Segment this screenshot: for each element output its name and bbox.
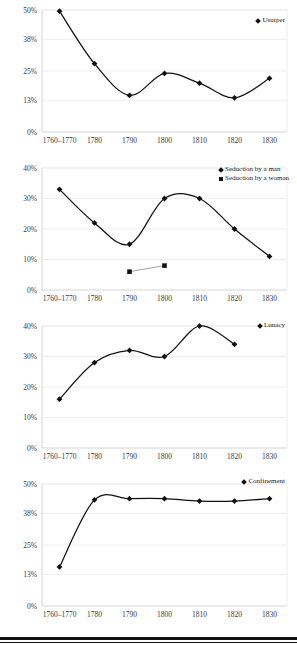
diamond-marker-icon (257, 323, 263, 329)
diamond-marker-icon (218, 167, 224, 173)
x-axis-tick-label: 1820 (227, 136, 242, 145)
y-axis-tick-label: 50% (23, 6, 37, 15)
chart-canvas-confinement: 0%13%25%38%50%1760–177017801790180018101… (0, 474, 297, 632)
x-axis-tick-label: 1820 (227, 294, 242, 303)
x-axis-tick-label: 1800 (157, 294, 172, 303)
x-axis-tick-label: 1830 (262, 452, 277, 461)
legend-item[interactable]: Usurper (256, 16, 285, 25)
x-axis-tick-label: 1790 (122, 610, 137, 619)
x-axis-tick-label: 1760–1770 (43, 136, 77, 145)
y-axis-tick-label: 20% (23, 383, 37, 392)
y-axis-tick-label: 50% (23, 480, 37, 489)
y-axis-tick-label: 30% (23, 194, 37, 203)
y-axis-tick-label: 30% (23, 352, 37, 361)
legend-item[interactable]: Seduction by a man (219, 165, 289, 174)
y-axis-tick-label: 0% (27, 128, 37, 137)
x-axis-tick-label: 1780 (87, 136, 102, 145)
y-axis-tick-label: 40% (23, 164, 37, 173)
y-axis-tick-label: 20% (23, 225, 37, 234)
y-axis-tick-label: 25% (23, 541, 37, 550)
y-axis-tick-label: 0% (27, 286, 37, 295)
y-axis-tick-label: 13% (23, 570, 37, 579)
chart-usurper-legend: Usurper (256, 16, 285, 25)
y-axis-tick-label: 38% (23, 35, 37, 44)
chart-confinement-legend: Confinement (242, 477, 285, 486)
x-axis-tick-label: 1800 (157, 136, 172, 145)
y-axis-tick-label: 10% (23, 255, 37, 264)
square-marker-icon (219, 177, 223, 181)
diamond-marker-icon (256, 18, 262, 24)
x-axis-tick-label: 1810 (192, 452, 207, 461)
legend-label: Usurper (262, 16, 285, 25)
series-line (60, 326, 235, 399)
bottom-rule-thin (0, 642, 297, 643)
series-line (130, 266, 165, 272)
x-axis-tick-label: 1810 (192, 136, 207, 145)
chart-seduction-legend: Seduction by a manSeduction by a woman (219, 165, 289, 183)
x-axis-tick-label: 1830 (262, 294, 277, 303)
series-line (60, 495, 270, 567)
y-axis-tick-label: 0% (27, 602, 37, 611)
series-lunacy (57, 323, 238, 402)
y-axis-tick-label: 0% (27, 444, 37, 453)
legend-item[interactable]: Lunacy (258, 321, 285, 330)
series-line (60, 11, 270, 98)
legend-label: Confinement (248, 477, 285, 486)
chart-canvas-lunacy: 0%10%20%30%40%1760–177017801790180018101… (0, 316, 297, 474)
x-axis-tick-label: 1760–1770 (43, 294, 77, 303)
chart-confinement: 0%13%25%38%50%1760–177017801790180018101… (0, 474, 297, 632)
series-seduction-by-a-woman (127, 263, 167, 274)
series-seduction-by-a-man (57, 186, 273, 259)
y-axis-tick-label: 38% (23, 509, 37, 518)
diamond-marker-icon (242, 479, 248, 485)
series-usurper (57, 8, 273, 100)
legend-item[interactable]: Confinement (242, 477, 285, 486)
y-axis-tick-label: 13% (23, 96, 37, 105)
y-axis-tick-label: 40% (23, 322, 37, 331)
x-axis-tick-label: 1800 (157, 610, 172, 619)
legend-label: Lunacy (264, 321, 285, 330)
x-axis-tick-label: 1820 (227, 610, 242, 619)
x-axis-tick-label: 1830 (262, 136, 277, 145)
y-axis-tick-label: 10% (23, 413, 37, 422)
x-axis-tick-label: 1760–1770 (43, 610, 77, 619)
series-confinement (57, 495, 273, 570)
x-axis-tick-label: 1790 (122, 294, 137, 303)
x-axis-tick-label: 1780 (87, 294, 102, 303)
bottom-rule-thick (0, 637, 297, 640)
chart-canvas-usurper: 0%13%25%38%50%1760–177017801790180018101… (0, 0, 297, 158)
x-axis-tick-label: 1760–1770 (43, 452, 77, 461)
x-axis-tick-label: 1830 (262, 610, 277, 619)
figure-page: 0%13%25%38%50%1760–177017801790180018101… (0, 0, 297, 646)
chart-usurper: 0%13%25%38%50%1760–177017801790180018101… (0, 0, 297, 158)
chart-seduction: 0%10%20%30%40%1760–177017801790180018101… (0, 158, 297, 316)
legend-label: Seduction by a woman (225, 174, 289, 183)
chart-lunacy: 0%10%20%30%40%1760–177017801790180018101… (0, 316, 297, 474)
x-axis-tick-label: 1810 (192, 610, 207, 619)
chart-lunacy-legend: Lunacy (258, 321, 285, 330)
x-axis-tick-label: 1790 (122, 136, 137, 145)
x-axis-tick-label: 1780 (87, 452, 102, 461)
x-axis-tick-label: 1790 (122, 452, 137, 461)
x-axis-tick-label: 1820 (227, 452, 242, 461)
y-axis-tick-label: 25% (23, 67, 37, 76)
x-axis-tick-label: 1800 (157, 452, 172, 461)
x-axis-tick-label: 1810 (192, 294, 207, 303)
legend-label: Seduction by a man (225, 165, 280, 174)
x-axis-tick-label: 1780 (87, 610, 102, 619)
legend-item[interactable]: Seduction by a woman (219, 174, 289, 183)
